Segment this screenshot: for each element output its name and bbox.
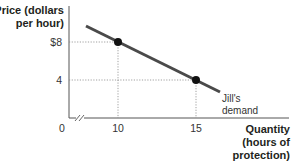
x-axis-title-line3: protection) [233, 149, 291, 161]
data-point-10-8 [114, 38, 122, 46]
x-tick-10: 10 [112, 122, 124, 134]
guide-lines [69, 42, 196, 118]
axis-break-icon [75, 114, 84, 122]
series-label-line2: demand [222, 105, 258, 116]
demand-curve [86, 26, 220, 92]
series-label-line1: Jill's [222, 93, 241, 104]
y-axis-title-line2: per hour) [16, 17, 65, 29]
demand-chart: Price (dollars per hour) $8 4 0 10 15 Ji… [0, 0, 293, 164]
x-tick-0: 0 [59, 122, 65, 134]
data-point-15-4 [192, 76, 200, 84]
y-tick-4: 4 [56, 74, 62, 86]
x-axis-title-line1: Quantity [245, 123, 290, 135]
x-tick-15: 15 [190, 122, 202, 134]
y-tick-8: $8 [50, 36, 62, 48]
x-axis-title-line2: (hours of [242, 136, 290, 148]
y-axis-title-line1: Price (dollars [0, 4, 64, 16]
